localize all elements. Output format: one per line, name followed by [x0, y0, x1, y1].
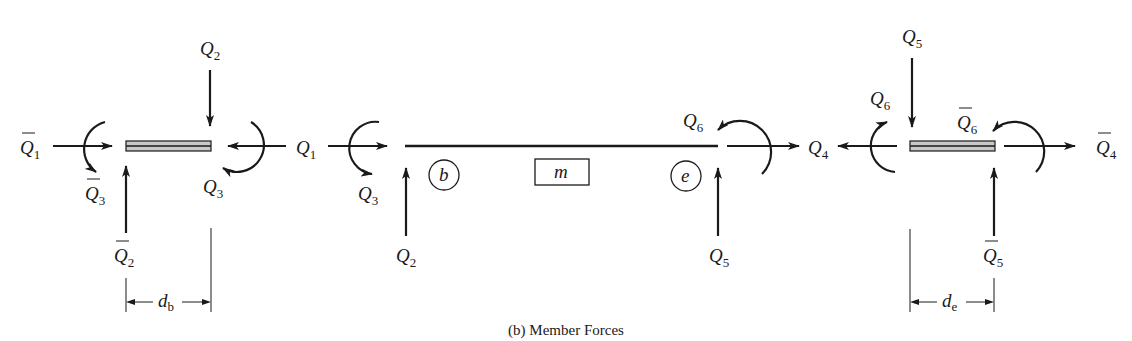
label-q5-member: Q5 — [709, 245, 729, 270]
label-q2bar: Q2 — [114, 245, 134, 270]
label-q3-member: Q3 — [358, 183, 378, 208]
label-q5bar: Q5 — [983, 245, 1003, 270]
member-group: b m e Q3 Q2 Q6 Q5 Q4 — [328, 110, 829, 270]
member-label: m — [554, 161, 568, 182]
label-q3bar: Q3 — [85, 183, 105, 208]
label-q6-member: Q6 — [683, 110, 704, 135]
rigid-offset-bar-right — [910, 141, 995, 151]
node-b-label: b — [439, 164, 449, 185]
member-forces-diagram: Q1 Q2 Q1 Q3 Q3 Q2 db b m e — [0, 0, 1132, 341]
label-q3-left-joint: Q3 — [203, 176, 223, 201]
label-q1-left-joint: Q1 — [296, 137, 316, 162]
label-q4-member: Q4 — [808, 137, 829, 162]
rigid-offset-bar-left — [126, 141, 211, 151]
moment-arrow-q3-member — [349, 122, 379, 174]
label-q6-right-joint: Q6 — [870, 88, 891, 113]
left-joint-group: Q1 Q2 Q1 Q3 Q3 Q2 db — [20, 38, 316, 314]
label-de: de — [942, 290, 958, 314]
moment-arrow-q6-member — [718, 121, 771, 174]
label-q2-member: Q2 — [396, 245, 416, 270]
label-q4bar: Q4 — [1096, 137, 1117, 162]
label-q6bar: Q6 — [957, 112, 978, 137]
label-q5-top: Q5 — [902, 26, 922, 51]
label-db: db — [158, 290, 174, 314]
label-q2-top-left: Q2 — [200, 38, 220, 63]
right-joint-group: Q5 Q6 Q6 Q4 Q5 de — [838, 26, 1117, 314]
label-q1bar-left: Q1 — [20, 137, 40, 162]
figure-caption: (b) Member Forces — [508, 322, 624, 339]
node-e-label: e — [681, 165, 689, 186]
